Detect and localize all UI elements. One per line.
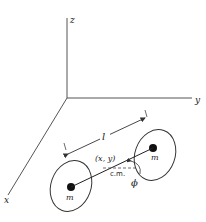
mass-left-label: m (66, 193, 74, 202)
length-label: l (102, 131, 105, 142)
z-axis-label: z (69, 15, 75, 25)
x-axis (8, 98, 67, 195)
y-axis-label: y (194, 95, 201, 105)
center-coordinate-label: (x, y) (95, 154, 115, 163)
coordinate-axes: z y x (4, 15, 201, 205)
mass-right-label: m (151, 153, 159, 162)
mass-left: m (43, 155, 98, 218)
dumbbell-diagram: z y x l m m (x, y) c.m. ϕ (0, 0, 206, 222)
angle-label: ϕ (131, 177, 138, 188)
length-dimension: l (64, 110, 147, 154)
cm-label: c.m. (110, 170, 125, 178)
x-axis-label: x (4, 195, 9, 205)
